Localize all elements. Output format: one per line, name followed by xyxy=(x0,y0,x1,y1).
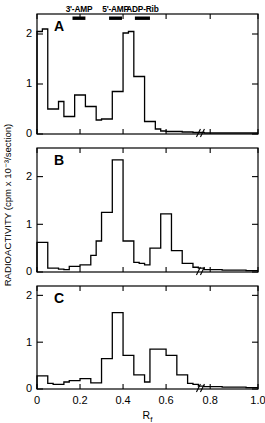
figure-container: 012A012B012C3'-AMP5'-AMPADP-Rib00.20.40.… xyxy=(0,0,265,423)
panel-label-c: C xyxy=(54,290,64,306)
axis-break-c-2 xyxy=(200,384,204,392)
marker-bar-0 xyxy=(72,17,85,20)
marker-label-2: ADP-Rib xyxy=(126,4,158,14)
trace-panel-a xyxy=(37,29,258,134)
panel-frame-c xyxy=(37,286,258,389)
panel-frame-b xyxy=(37,148,258,272)
x-tick-label-4: 0.8 xyxy=(203,394,218,406)
marker-bar-2 xyxy=(135,17,150,20)
x-tick-label-2: 0.4 xyxy=(115,394,130,406)
chromatogram-figure: 012A012B012C3'-AMP5'-AMPADP-Rib00.20.40.… xyxy=(0,0,265,423)
trace-panel-c xyxy=(37,313,258,389)
y-tick-label-c-2: 2 xyxy=(26,289,32,301)
trace-panel-b xyxy=(37,160,258,272)
y-tick-label-a-2: 2 xyxy=(26,27,32,39)
x-tick-label-1: 0.2 xyxy=(72,394,87,406)
marker-bar-1 xyxy=(109,17,122,20)
panel-label-b: B xyxy=(54,152,64,168)
y-axis-title: RADIOACTIVITY (cpm x 10⁻³/section) xyxy=(2,124,13,287)
x-axis-title: Rf xyxy=(143,409,154,423)
y-tick-label-c-1: 1 xyxy=(26,336,32,348)
y-tick-label-a-1: 1 xyxy=(26,77,32,89)
x-tick-label-5: 1.0 xyxy=(250,394,265,406)
marker-label-0: 3'-AMP xyxy=(66,4,93,14)
y-tick-label-b-0: 0 xyxy=(26,265,32,277)
x-tick-label-3: 0.6 xyxy=(158,394,173,406)
x-tick-label-0: 0 xyxy=(34,394,40,406)
y-tick-label-c-0: 0 xyxy=(26,382,32,394)
y-tick-label-b-2: 2 xyxy=(26,170,32,182)
y-tick-label-a-0: 0 xyxy=(26,127,32,139)
y-tick-label-b-1: 1 xyxy=(26,218,32,230)
panel-label-a: A xyxy=(54,18,64,34)
